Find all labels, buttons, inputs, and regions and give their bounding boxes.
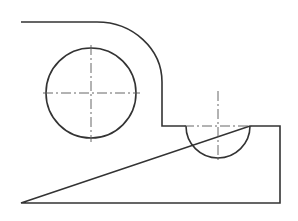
technical-drawing	[0, 0, 298, 221]
plate-outline	[21, 22, 280, 203]
